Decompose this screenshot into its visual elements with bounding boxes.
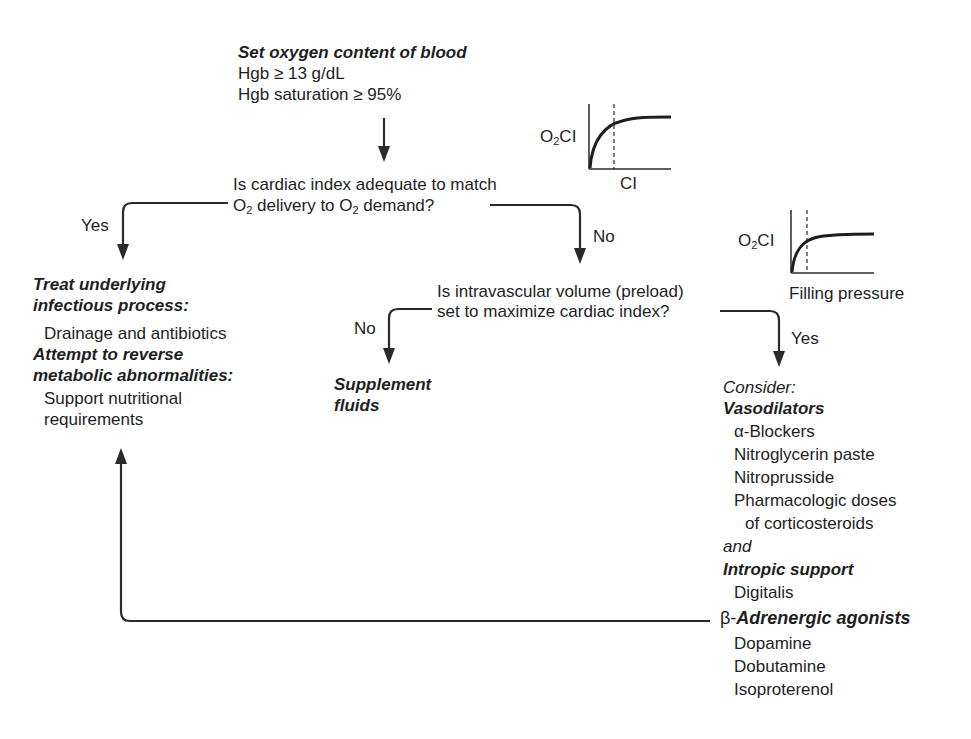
arrow-q2-yes: [720, 311, 779, 355]
branch-q1-no: No: [593, 226, 615, 247]
branch-q2-yes: Yes: [791, 328, 819, 349]
branch-q1-yes: Yes: [81, 215, 109, 236]
question2-line2: set to maximize cardiac index?: [437, 301, 669, 322]
vasodilator-item: Nitroprusside: [723, 467, 834, 488]
start-line-saturation: Hgb saturation ≥ 95%: [238, 84, 401, 105]
vasodilator-item: α-Blockers: [723, 421, 815, 442]
vasodilators-heading: Vasodilators: [723, 398, 824, 419]
question2-line1: Is intravascular volume (preload): [437, 281, 684, 302]
inset1-ylabel: O2CI: [540, 126, 576, 147]
left-heading2-line2: metabolic abnormalities:: [33, 365, 233, 386]
inotropic-item: Digitalis: [723, 582, 794, 603]
arrowhead-icon: [378, 146, 390, 162]
inset1-xlabel: CI: [620, 173, 637, 194]
consider-intro: Consider:: [723, 377, 796, 398]
branch-q2-no: No: [354, 318, 376, 339]
arrowhead-icon: [383, 348, 395, 364]
vasodilator-item-cont: of corticosteroids: [723, 513, 874, 534]
left-heading1-line1: Treat underlying: [33, 274, 166, 295]
beta-agonists-heading: β-Adrenergic agonists: [720, 608, 910, 629]
arrow-q1-yes: [123, 203, 228, 248]
arrowhead-icon: [574, 248, 586, 264]
fluids-line2: fluids: [334, 395, 379, 416]
arrowhead-icon: [117, 244, 129, 260]
arrow-q1-no: [490, 205, 580, 252]
inset-chart-oxygen-vs-filling-pressure: [791, 210, 874, 273]
arrow-feedback-loop: [121, 460, 710, 621]
question1-line1: Is cardiac index adequate to match: [233, 174, 497, 195]
fluids-line1: Supplement: [334, 374, 431, 395]
vasodilator-item: Nitroglycerin paste: [723, 444, 875, 465]
inset2-ylabel: O2CI: [738, 230, 774, 251]
left-item-drainage: Drainage and antibiotics: [33, 323, 226, 344]
left-heading2-line1: Attempt to reverse: [33, 344, 183, 365]
vasodilator-item: Pharmacologic doses: [723, 490, 897, 511]
question1-line2: O2 delivery to O2 demand?: [233, 195, 434, 216]
left-item-nutrition-line1: Support nutritional: [33, 388, 182, 409]
start-title: Set oxygen content of blood: [238, 42, 467, 63]
arrowhead-icon: [115, 448, 127, 464]
consider-and: and: [723, 536, 751, 557]
beta-item: Dopamine: [723, 633, 812, 654]
arrowhead-icon: [773, 351, 785, 367]
arrow-q2-no: [389, 309, 432, 352]
inotropic-heading: Intropic support: [723, 559, 853, 580]
inset2-xlabel: Filling pressure: [789, 283, 904, 304]
left-item-nutrition-line2: requirements: [33, 409, 143, 430]
beta-item: Dobutamine: [723, 656, 826, 677]
beta-item: Isoproterenol: [723, 679, 833, 700]
start-line-hgb: Hgb ≥ 13 g/dL: [238, 63, 345, 84]
left-heading1-line2: infectious process:: [33, 295, 189, 316]
inset-chart-oxygen-vs-ci: [589, 104, 671, 169]
